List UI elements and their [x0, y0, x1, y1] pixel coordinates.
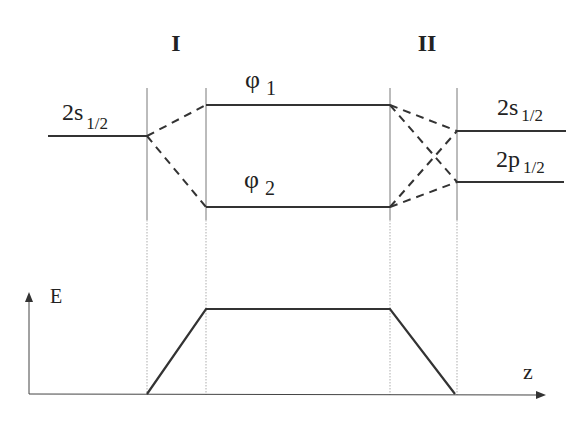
x-axis-label: z	[523, 359, 533, 384]
energy-level-diagram: I II 2s1/2 φ1 φ2 2s1/2 2p1/2 E z	[0, 0, 588, 421]
y-axis-label: E	[50, 285, 62, 307]
y-axis-arrow-icon	[25, 292, 33, 302]
label-right-2p: 2p1/2	[496, 146, 545, 177]
dotted-guide-lines	[147, 220, 457, 395]
energy-levels	[48, 105, 566, 207]
x-axis-arrow-icon	[536, 391, 546, 399]
region-label-II: II	[418, 30, 437, 56]
correlation-lines	[147, 105, 457, 207]
label-phi1: φ1	[245, 65, 276, 99]
field-profile-trapezoid	[147, 309, 455, 394]
region-label-I: I	[171, 30, 180, 56]
label-phi2: φ2	[244, 165, 275, 199]
label-left-2s: 2s1/2	[62, 99, 108, 133]
label-right-2s: 2s1/2	[497, 94, 543, 125]
